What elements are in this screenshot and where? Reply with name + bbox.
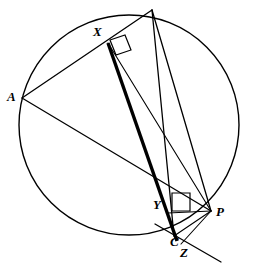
chord-segments-group bbox=[22, 10, 221, 262]
point-label-P: P bbox=[216, 205, 224, 218]
geometry-figure: A X Y P C Z bbox=[0, 0, 259, 264]
simson-line-extended bbox=[155, 224, 221, 262]
point-label-X: X bbox=[93, 25, 102, 38]
right-angle-marks-group bbox=[110, 35, 190, 211]
geometry-canvas bbox=[0, 0, 259, 264]
segment-X-to-C-thick bbox=[108, 43, 177, 241]
segment-P-to-Z bbox=[181, 211, 211, 244]
thick-segments-group bbox=[108, 43, 177, 241]
point-label-Y: Y bbox=[153, 198, 161, 211]
point-label-Z: Z bbox=[180, 246, 188, 259]
point-label-C: C bbox=[170, 235, 179, 248]
right-angle-at-Y bbox=[172, 193, 190, 211]
point-label-A: A bbox=[7, 90, 16, 103]
